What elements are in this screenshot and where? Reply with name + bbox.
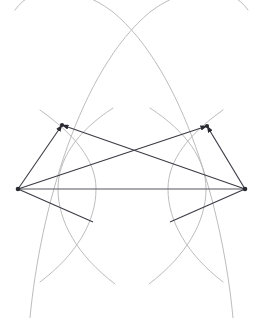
segment-right-to-top-right [207,126,245,189]
right-lens-inner-arc [149,108,206,284]
vertex-right [243,187,248,192]
segment-right-to-top-left [62,125,245,189]
arc-layer [15,0,248,318]
vertex-layer [16,123,248,191]
large-arc-left-sweeping-right [30,0,248,318]
left-lens-outer-arc [40,110,96,282]
geometry-diagram [0,0,261,318]
vertex-left [16,187,21,192]
geometry-canvas [0,0,261,318]
segment-left-lower-spur [18,189,93,222]
large-arc-right-sweeping-left [15,0,233,318]
segment-right-lower-spur [170,189,245,222]
segment-left-to-top-left [18,125,62,189]
vector-layer [18,125,245,222]
vertex-top-right [205,124,209,128]
vertex-top-left [60,123,64,127]
segment-left-to-top-right [18,126,207,189]
